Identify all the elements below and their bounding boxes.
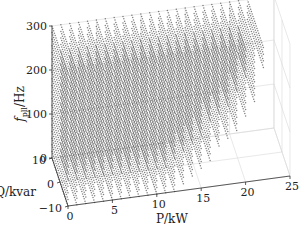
3d-scatter-chart: 0510152025−100100100200300 P/kW Q/kvar f… (0, 0, 307, 235)
svg-text:fpll/Hz: fpll/Hz (13, 86, 29, 123)
z-axis-label: fpll/Hz (13, 86, 29, 123)
svg-text:20: 20 (241, 186, 255, 199)
svg-text:5: 5 (111, 204, 118, 217)
svg-text:10: 10 (152, 198, 166, 211)
svg-text:100: 100 (26, 108, 47, 121)
svg-text:300: 300 (26, 20, 47, 33)
svg-text:0: 0 (47, 178, 54, 191)
svg-text:200: 200 (26, 64, 47, 77)
svg-text:0: 0 (40, 152, 47, 165)
svg-text:25: 25 (285, 180, 299, 193)
svg-text:15: 15 (196, 192, 210, 205)
y-axis-label: Q/kvar (0, 185, 36, 199)
x-axis-label: P/kW (156, 212, 188, 226)
data-points (51, 0, 264, 207)
svg-text:−10: −10 (39, 202, 62, 215)
svg-text:0: 0 (67, 210, 74, 223)
plot-area: 0510152025−100100100200300 P/kW Q/kvar f… (0, 0, 307, 235)
